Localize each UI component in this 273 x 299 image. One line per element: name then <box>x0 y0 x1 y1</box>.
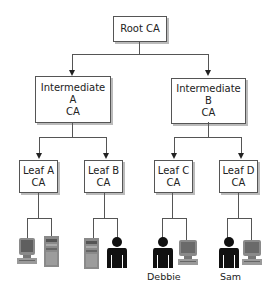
leaf-a-label-line1: Leaf A <box>23 165 54 177</box>
connector <box>238 192 239 219</box>
intermediate-b-label-line1: Intermediate <box>176 83 241 95</box>
arrow-down-icon <box>103 153 109 159</box>
leaf-d-ca-box: Leaf D CA <box>219 160 258 193</box>
connector <box>27 218 51 219</box>
connector <box>72 54 209 55</box>
connector <box>117 218 118 238</box>
connector <box>27 218 28 238</box>
connector <box>227 218 251 219</box>
connector <box>241 137 242 154</box>
connector <box>174 137 242 138</box>
connector <box>139 41 140 55</box>
connector <box>174 137 175 154</box>
leaf-d-label-line1: Leaf D <box>222 165 254 177</box>
server-icon <box>84 238 99 269</box>
connector <box>162 218 186 219</box>
leaf-c-label-line2: CA <box>167 177 181 189</box>
connector <box>162 218 163 238</box>
intermediate-a-label-line2: A <box>70 94 77 106</box>
end-entity-label-debbie: Debbie <box>147 271 181 282</box>
leaf-b-label-line2: CA <box>97 177 111 189</box>
intermediate-b-ca-box: Intermediate B CA <box>171 78 246 124</box>
person-icon <box>218 237 240 269</box>
connector <box>39 137 107 138</box>
intermediate-a-label-line1: Intermediate <box>41 82 106 94</box>
computer-icon <box>17 237 37 267</box>
connector <box>186 218 187 240</box>
leaf-b-label-line1: Leaf B <box>88 165 119 177</box>
leaf-b-ca-box: Leaf B CA <box>84 160 123 193</box>
end-entity-label-sam: Sam <box>220 271 241 282</box>
connector <box>208 54 209 70</box>
connector <box>104 192 105 219</box>
arrow-down-icon <box>205 70 211 76</box>
person-icon <box>106 237 128 269</box>
intermediate-a-ca-box: Intermediate A CA <box>35 76 111 123</box>
leaf-c-label-line1: Leaf C <box>158 165 189 177</box>
connector <box>93 218 117 219</box>
connector <box>72 54 73 70</box>
root-ca-label: Root CA <box>120 23 160 35</box>
connector <box>51 218 52 236</box>
person-icon <box>152 237 174 269</box>
connector <box>72 122 73 138</box>
root-ca-box: Root CA <box>113 16 167 42</box>
intermediate-a-label-line3: CA <box>66 106 80 118</box>
server-icon <box>44 236 59 267</box>
arrow-down-icon <box>238 153 244 159</box>
computer-icon <box>178 240 198 268</box>
connector <box>208 122 209 138</box>
connector <box>39 137 40 154</box>
connector <box>38 192 39 219</box>
leaf-c-ca-box: Leaf C CA <box>154 160 193 193</box>
connector <box>93 218 94 238</box>
leaf-a-label-line2: CA <box>32 177 46 189</box>
connector <box>106 137 107 154</box>
connector <box>251 218 252 240</box>
computer-icon <box>242 240 262 268</box>
connector <box>172 192 173 219</box>
arrow-down-icon <box>36 153 42 159</box>
intermediate-b-label-line3: CA <box>202 107 216 119</box>
arrow-down-icon <box>171 153 177 159</box>
connector <box>227 218 228 238</box>
leaf-a-ca-box: Leaf A CA <box>19 160 58 193</box>
intermediate-b-label-line2: B <box>205 95 212 107</box>
leaf-d-label-line2: CA <box>232 177 246 189</box>
